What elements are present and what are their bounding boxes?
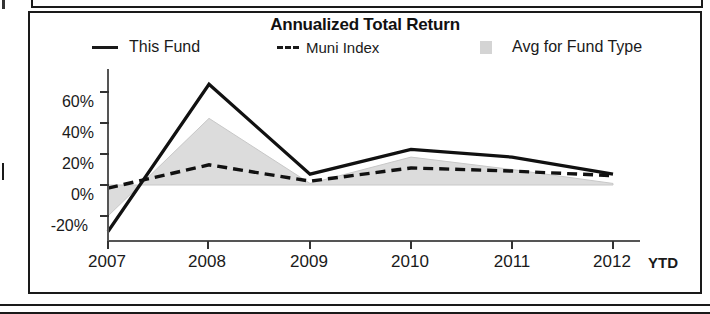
page-edge-mark-left bbox=[2, 163, 4, 180]
page-bottom-rule bbox=[0, 304, 710, 306]
chart-plot-area bbox=[30, 13, 704, 296]
series-area-avg-for-fund-type bbox=[108, 118, 613, 216]
annualized-total-return-panel: Annualized Total Return This Fund Muni I… bbox=[28, 11, 702, 294]
document-fragment-box-above bbox=[31, 0, 703, 8]
x-axis-ticks bbox=[108, 241, 613, 249]
page-edge-mark-left-top bbox=[2, 0, 5, 9]
